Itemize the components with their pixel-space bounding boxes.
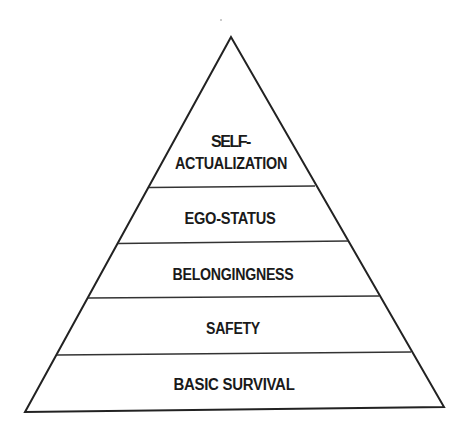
- level-label-self-actualization-2: ACTUALIZATION: [175, 155, 287, 172]
- level-label-basic-survival: BASIC SURVIVAL: [174, 376, 295, 393]
- speck-mark: [220, 19, 222, 21]
- level-label-safety: SAFETY: [206, 320, 261, 337]
- pyramid-diagram: SELF- ACTUALIZATION EGO-STATUS BELONGING…: [0, 0, 468, 442]
- level-label-self-actualization-1: SELF-: [211, 133, 251, 150]
- level-label-ego-status: EGO-STATUS: [185, 210, 277, 227]
- level-label-belongingness: BELONGINGNESS: [173, 266, 295, 283]
